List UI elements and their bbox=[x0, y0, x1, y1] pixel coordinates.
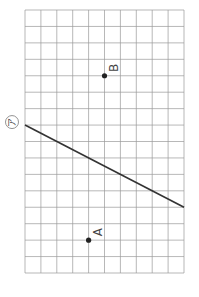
line-label-text: ア bbox=[7, 118, 17, 127]
point-label-a: A bbox=[91, 227, 105, 236]
points: BA bbox=[86, 64, 121, 243]
point-label-b: B bbox=[107, 64, 121, 72]
line-label: ア bbox=[6, 116, 19, 129]
grid-figure: ア BA bbox=[0, 0, 199, 297]
grid-diagram: ア BA bbox=[0, 0, 199, 297]
point-a bbox=[86, 238, 91, 243]
point-b bbox=[102, 73, 107, 78]
